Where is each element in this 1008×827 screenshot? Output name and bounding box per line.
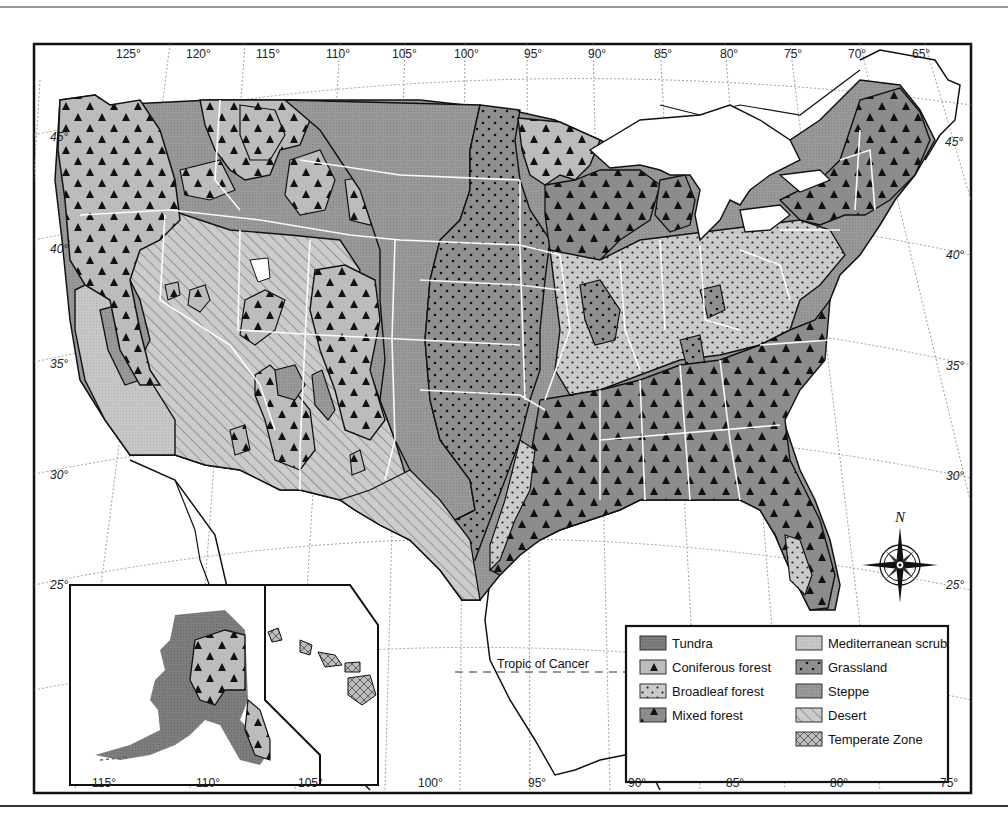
tick-label: 80° — [720, 47, 738, 61]
legend-label-mixed: Mixed forest — [672, 708, 743, 723]
tick-label: 115° — [256, 47, 280, 61]
tick-label: 35° — [946, 359, 964, 373]
legend-swatch-grassland — [796, 660, 822, 674]
tick-label: 90° — [588, 47, 606, 61]
legend-swatch-temperate — [796, 732, 822, 746]
legend-swatch-broadleaf — [640, 684, 666, 698]
legend-swatch-mediterranean — [796, 636, 822, 650]
legend-label-grassland: Grassland — [828, 660, 887, 675]
tick-label: 115° — [92, 776, 116, 790]
tick-label: 110° — [196, 776, 220, 790]
legend-swatch-coniferous — [640, 660, 666, 674]
legend-label-tundra: Tundra — [672, 636, 713, 651]
tick-label: 30° — [50, 468, 68, 482]
vegetation-map: Tropic of Cancer N Tundra Conife — [0, 0, 1008, 827]
tick-label: 100° — [418, 776, 443, 790]
tick-label: 35° — [50, 357, 68, 371]
tick-label: 120° — [186, 47, 211, 61]
tick-label: 125° — [116, 47, 141, 61]
tick-label: 85° — [654, 47, 672, 61]
tick-label: 105° — [392, 47, 417, 61]
legend-label-desert: Desert — [828, 708, 867, 723]
legend-label-temperate: Temperate Zone — [828, 732, 923, 747]
legend-swatch-mixed — [640, 708, 666, 722]
tick-label: 75° — [784, 47, 802, 61]
legend: Tundra Coniferous forest Broadleaf fores… — [626, 626, 948, 782]
tick-label: 70° — [848, 47, 866, 61]
tick-label: 40° — [946, 248, 964, 262]
tick-label: 80° — [830, 776, 848, 790]
tick-label: 25° — [49, 578, 68, 592]
tropic-of-cancer-label: Tropic of Cancer — [497, 657, 589, 671]
legend-label-coniferous: Coniferous forest — [672, 660, 771, 675]
tick-label: 45° — [945, 135, 963, 149]
legend-label-mediterranean: Mediterranean scrub — [828, 636, 947, 651]
tick-label: 65° — [912, 47, 930, 61]
tick-label: 105° — [298, 776, 323, 790]
tick-label: 25° — [945, 578, 964, 592]
tick-label: 95° — [528, 776, 546, 790]
north-label: N — [894, 509, 906, 525]
legend-swatch-desert — [796, 708, 822, 722]
tick-label: 90° — [628, 776, 646, 790]
tick-label: 30° — [946, 469, 964, 483]
legend-label-steppe: Steppe — [828, 684, 869, 699]
legend-swatch-tundra — [640, 636, 666, 650]
tick-label: 110° — [326, 47, 350, 61]
tick-label: 75° — [940, 776, 958, 790]
tick-label: 100° — [454, 47, 479, 61]
tick-label: 40° — [50, 242, 68, 256]
tick-label: 45° — [50, 130, 68, 144]
tick-label: 95° — [524, 47, 542, 61]
legend-label-broadleaf: Broadleaf forest — [672, 684, 764, 699]
legend-swatch-steppe — [796, 684, 822, 698]
tick-label: 85° — [726, 776, 744, 790]
